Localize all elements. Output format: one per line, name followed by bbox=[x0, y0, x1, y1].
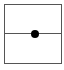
center-dot-icon bbox=[31, 30, 39, 38]
square-frame bbox=[4, 4, 62, 64]
